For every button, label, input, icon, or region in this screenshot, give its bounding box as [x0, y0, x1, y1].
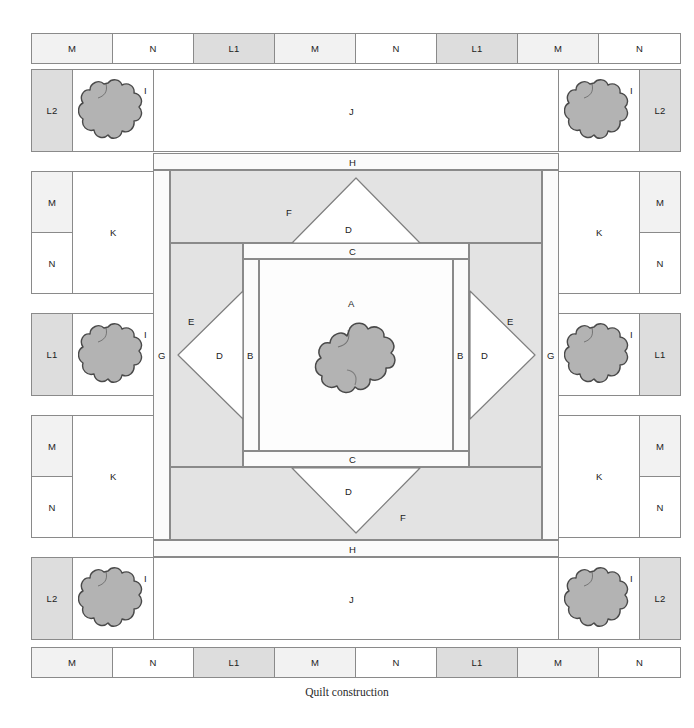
top-border-cell-label: L1 — [472, 43, 483, 54]
top-border-cell-8: N — [598, 33, 681, 64]
left-border-cell-label: L2 — [47, 593, 58, 604]
right-border-cell-1: L2 — [639, 69, 681, 152]
bottom-border-cell-3: L1 — [193, 647, 275, 678]
sashing-k-right-upper — [558, 171, 640, 294]
left-border-cell-5: M — [31, 415, 73, 477]
center-block-d-bottom — [291, 467, 421, 534]
top-border-cell-label: N — [149, 43, 156, 54]
left-border-cell-label: N — [48, 502, 55, 513]
right-border-cell-4: L1 — [639, 313, 681, 396]
right-border-cell-label: L2 — [655, 105, 666, 116]
center-block-d-right — [469, 290, 536, 420]
top-border-cell-label: M — [311, 43, 319, 54]
right-border-cell-label: L2 — [655, 593, 666, 604]
inner-frame-g-left — [153, 170, 170, 540]
right-border-cell-label: N — [656, 258, 663, 269]
top-border-cell-3: L1 — [193, 33, 275, 64]
right-border-cell-5: M — [639, 415, 681, 477]
top-border-cell-6: L1 — [436, 33, 518, 64]
top-border-cell-4: M — [274, 33, 356, 64]
left-border-cell-3: N — [31, 232, 73, 294]
sashing-j-bottom — [153, 557, 559, 640]
left-border-cell-4: L1 — [31, 313, 73, 396]
bottom-border-cell-label: M — [311, 657, 319, 668]
top-border-cell-label: M — [554, 43, 562, 54]
center-block-b-left — [243, 259, 259, 451]
top-border-cell-label: L1 — [229, 43, 240, 54]
top-border-cell-label: N — [636, 43, 643, 54]
bottom-border-cell-label: L1 — [472, 657, 483, 668]
bottom-border-cell-label: N — [149, 657, 156, 668]
left-border-cell-label: M — [48, 441, 56, 452]
bottom-border-cell-label: L1 — [229, 657, 240, 668]
right-border-cell-label: M — [656, 197, 664, 208]
left-border-cell-label: N — [48, 258, 55, 269]
right-border-cell-6: N — [639, 476, 681, 538]
left-border-cell-label: L2 — [47, 105, 58, 116]
quilt-construction-diagram: M N L1 M N L1 M N M N L1 M N L1 M N L2 M… — [0, 0, 694, 728]
bottom-border-cell-2: N — [112, 647, 194, 678]
inner-frame-h-top — [153, 153, 559, 170]
right-border-cell-label: M — [656, 441, 664, 452]
top-border-cell-5: N — [355, 33, 437, 64]
bottom-border-cell-4: M — [274, 647, 356, 678]
flower-motif-center — [314, 322, 400, 397]
center-block-d-top — [291, 177, 421, 244]
flower-motif-top-right — [564, 78, 632, 144]
right-border-cell-label: L1 — [655, 349, 666, 360]
bottom-border-cell-1: M — [31, 647, 113, 678]
right-border-cell-7: L2 — [639, 557, 681, 640]
left-border-cell-6: N — [31, 476, 73, 538]
left-border-cell-7: L2 — [31, 557, 73, 640]
inner-frame-h-bottom — [153, 540, 559, 557]
top-border-cell-1: M — [31, 33, 113, 64]
center-block-b-right — [453, 259, 469, 451]
figure-caption: Quilt construction — [0, 686, 694, 698]
sashing-j-top — [153, 69, 559, 152]
bottom-border-cell-6: L1 — [436, 647, 518, 678]
sashing-k-left-upper — [72, 171, 154, 294]
top-border-cell-label: N — [392, 43, 399, 54]
bottom-border-cell-5: N — [355, 647, 437, 678]
right-border-cell-2: M — [639, 171, 681, 233]
top-border-cell-2: N — [112, 33, 194, 64]
top-border-cell-label: M — [68, 43, 76, 54]
flower-motif-top-left — [78, 78, 146, 144]
bottom-border-cell-label: N — [392, 657, 399, 668]
bottom-border-cell-label: M — [68, 657, 76, 668]
center-block-c-bottom — [243, 451, 469, 467]
center-block-d-left — [177, 290, 244, 420]
center-block-c-top — [243, 243, 469, 259]
left-border-cell-2: M — [31, 171, 73, 233]
left-border-cell-label: M — [48, 197, 56, 208]
top-border-cell-7: M — [517, 33, 599, 64]
sashing-k-right-lower — [558, 415, 640, 538]
right-border-cell-3: N — [639, 232, 681, 294]
flower-motif-bottom-left — [78, 566, 146, 632]
flower-motif-bottom-right — [564, 566, 632, 632]
flower-motif-mid-left — [78, 322, 146, 388]
bottom-border-cell-label: N — [636, 657, 643, 668]
bottom-border-cell-8: N — [598, 647, 681, 678]
left-border-cell-1: L2 — [31, 69, 73, 152]
bottom-border-cell-7: M — [517, 647, 599, 678]
left-border-cell-label: L1 — [47, 349, 58, 360]
flower-motif-mid-right — [564, 322, 632, 388]
sashing-k-left-lower — [72, 415, 154, 538]
inner-frame-g-right — [542, 170, 559, 540]
right-border-cell-label: N — [656, 502, 663, 513]
bottom-border-cell-label: M — [554, 657, 562, 668]
